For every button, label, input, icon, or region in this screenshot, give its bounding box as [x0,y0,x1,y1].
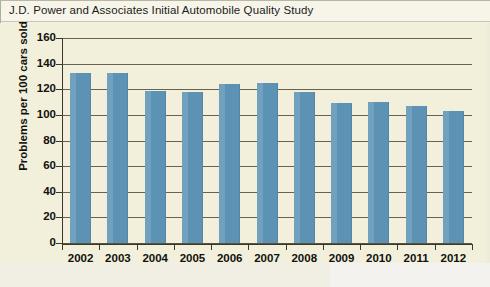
bar-2010 [368,102,389,243]
x-axis-tick [248,244,249,250]
y-axis-tick-label: 120 [37,82,56,94]
y-axis-tick-label: 160 [37,31,56,43]
bar-2012 [443,111,464,243]
y-axis-tick [56,192,62,193]
bar-2005 [182,92,203,243]
chart-figure: Problems per 100 cars sold 0204060801001… [0,23,490,263]
y-axis-tick-label: 60 [43,159,56,171]
x-axis-tick [62,244,63,250]
y-axis-tick-labels: 020406080100120140160 [14,38,56,243]
x-axis-tick [360,244,361,250]
x-axis-tick [286,244,287,250]
y-axis-tick [56,141,62,142]
plot-area [62,38,472,243]
caption-left-rule [0,1,1,23]
paper-edge [484,23,490,263]
bar-highlight [146,91,151,243]
y-axis-tick-label: 100 [37,108,56,120]
page-bottom-left [0,263,330,287]
bar-2003 [107,73,128,243]
bar-highlight [369,102,374,243]
bar-highlight [444,111,449,243]
bar-highlight [295,92,300,243]
x-axis-tick [174,244,175,250]
x-axis-tick [435,244,436,250]
x-axis-tick [323,244,324,250]
bar-2011 [406,106,427,243]
y-axis-tick [56,89,62,90]
gridline [62,38,472,39]
y-axis-tick-label: 40 [43,185,56,197]
bar-highlight [71,73,76,243]
x-axis-line [62,244,472,245]
y-axis-tick-label: 0 [50,236,56,248]
figure-caption-text: J.D. Power and Associates Initial Automo… [9,4,313,16]
gridline [62,64,472,65]
y-axis-tick [56,38,62,39]
bar-highlight [258,83,263,243]
x-axis-tick [472,244,473,250]
page-bottom-margin [0,263,490,287]
x-axis-tick [137,244,138,250]
bar-2007 [257,83,278,243]
bar-2004 [145,91,166,243]
x-axis-tick [99,244,100,250]
figure-caption-bar: J.D. Power and Associates Initial Automo… [0,0,490,22]
y-axis-tick-label: 20 [43,210,56,222]
x-axis-tick [397,244,398,250]
y-axis-tick [56,64,62,65]
x-axis-tick [211,244,212,250]
y-axis-tick [56,166,62,167]
bar-2008 [294,92,315,243]
bar-highlight [183,92,188,243]
bar-highlight [220,84,225,243]
y-axis-tick [56,217,62,218]
y-axis-tick-label: 80 [43,134,56,146]
bar-2009 [331,103,352,243]
bar-highlight [332,103,337,243]
bar-highlight [407,106,412,243]
bar-2006 [219,84,240,243]
bar-highlight [108,73,113,243]
bar-2002 [70,73,91,243]
y-axis-tick [56,115,62,116]
y-axis-tick-label: 140 [37,57,56,69]
